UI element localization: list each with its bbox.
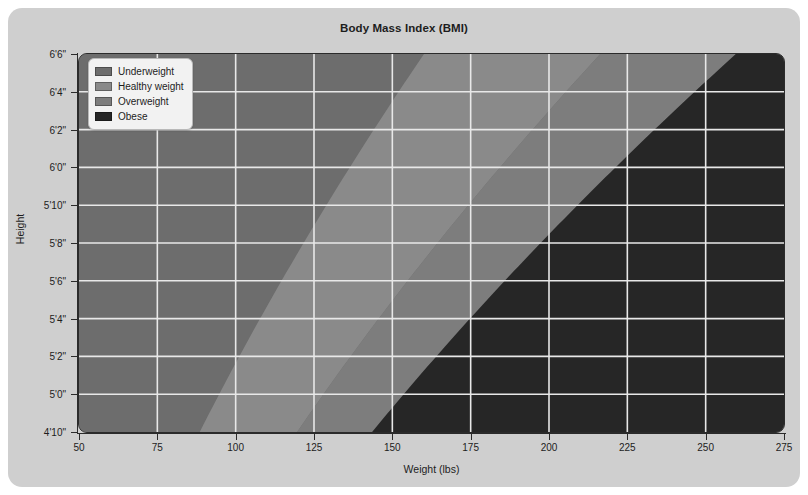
x-tick-label: 175	[462, 442, 479, 453]
chart-legend: UnderweightHealthy weightOverweightObese	[88, 58, 193, 130]
legend-swatch-icon	[95, 82, 112, 91]
legend-item-label: Underweight	[118, 66, 174, 77]
chart-card: Body Mass Index (BMI) 4'10"5'0"5'2"5'4"5…	[8, 8, 800, 487]
x-tick-mark	[236, 434, 237, 440]
x-tick-label: 150	[384, 442, 401, 453]
x-tick-label: 225	[619, 442, 636, 453]
legend-item[interactable]: Overweight	[95, 94, 184, 109]
x-tick-mark	[157, 434, 158, 440]
y-tick-mark	[71, 319, 77, 320]
y-axis-title: Height	[14, 199, 26, 259]
x-tick-mark	[314, 434, 315, 440]
legend-item-label: Healthy weight	[118, 81, 184, 92]
y-tick-mark	[71, 130, 77, 131]
x-tick-mark	[471, 434, 472, 440]
y-tick-mark	[71, 54, 77, 55]
x-tick-mark	[79, 434, 80, 440]
bmi-chart-page: Body Mass Index (BMI) 4'10"5'0"5'2"5'4"5…	[0, 0, 808, 495]
legend-swatch-icon	[95, 67, 112, 76]
legend-item[interactable]: Obese	[95, 109, 184, 124]
y-tick-mark	[71, 281, 77, 282]
y-tick-mark	[71, 205, 77, 206]
legend-item[interactable]: Healthy weight	[95, 79, 184, 94]
x-tick-label: 250	[697, 442, 714, 453]
y-tick-label: 6'4"	[8, 86, 66, 97]
y-tick-label: 6'2"	[8, 124, 66, 135]
y-tick-label: 6'0"	[8, 162, 66, 173]
y-tick-mark	[71, 394, 77, 395]
x-tick-label: 275	[776, 442, 793, 453]
x-axis-title: Weight (lbs)	[77, 463, 786, 475]
legend-item-label: Overweight	[118, 96, 169, 107]
legend-item[interactable]: Underweight	[95, 64, 184, 79]
y-tick-label: 5'2"	[8, 351, 66, 362]
x-tick-mark	[392, 434, 393, 440]
y-tick-label: 4'10"	[8, 427, 66, 438]
y-tick-mark	[71, 92, 77, 93]
y-tick-label: 5'0"	[8, 389, 66, 400]
x-tick-label: 50	[73, 442, 84, 453]
page-title: Body Mass Index (BMI)	[8, 22, 800, 34]
x-tick-label: 100	[227, 442, 244, 453]
y-axis-line	[77, 53, 78, 434]
y-tick-label: 5'4"	[8, 313, 66, 324]
y-tick-label: 5'6"	[8, 275, 66, 286]
x-tick-label: 125	[306, 442, 323, 453]
legend-swatch-icon	[95, 97, 112, 106]
y-tick-mark	[71, 243, 77, 244]
x-tick-mark	[784, 434, 785, 440]
x-axis-line	[77, 433, 786, 434]
y-tick-mark	[71, 356, 77, 357]
legend-swatch-icon	[95, 112, 112, 121]
x-tick-label: 200	[541, 442, 558, 453]
y-tick-label: 6'6"	[8, 49, 66, 60]
legend-item-label: Obese	[118, 111, 147, 122]
x-tick-label: 75	[152, 442, 163, 453]
x-tick-mark	[627, 434, 628, 440]
x-tick-mark	[706, 434, 707, 440]
y-tick-mark	[71, 432, 77, 433]
x-tick-mark	[549, 434, 550, 440]
y-tick-mark	[71, 167, 77, 168]
